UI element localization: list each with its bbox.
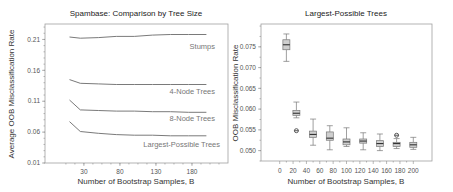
right-x-tick-label: 160 <box>381 167 392 174</box>
right-x-tick-label: 100 <box>341 167 352 174</box>
series-line-2 <box>70 100 207 112</box>
left-y-tick-label: 0.21 <box>27 36 40 43</box>
left-x-axis: 3080130180 <box>66 163 219 175</box>
right-x-tick-label: 0 <box>278 167 282 174</box>
right-y-tick-label: 0.055 <box>240 126 257 133</box>
right-x-axis-title: Number of Bootstrap Samples, B <box>288 177 405 186</box>
left-chart: Spambase: Comparison by Tree Size 0.210.… <box>7 9 228 186</box>
right-x-tick-label: 120 <box>354 167 365 174</box>
box-plot-10 <box>283 34 290 61</box>
left-y-tick-label: 0.16 <box>27 67 40 74</box>
figure: Spambase: Comparison by Tree Size 0.210.… <box>0 0 453 192</box>
left-x-axis-title: Number of Bootstrap Samples, B <box>78 177 195 186</box>
left-x-tick-label: 180 <box>187 168 198 175</box>
box-plot-25 <box>293 102 300 133</box>
series-line-0 <box>70 35 207 39</box>
series-label-8-node: 8-Node Trees <box>170 114 216 123</box>
box-iqr <box>393 142 400 146</box>
right-y-tick-label: 0.060 <box>240 105 257 112</box>
right-y-tick-label: 0.065 <box>240 85 257 92</box>
right-y-tick-label: 0.075 <box>240 43 257 50</box>
right-x-tick-label: 80 <box>330 167 338 174</box>
series-label-largest: Largest-Possible Trees <box>143 140 220 149</box>
right-y-axis: 0.0750.0700.0650.0600.0550.050 <box>240 26 261 161</box>
series-line-3 <box>70 122 207 136</box>
box-plot-125 <box>360 133 367 150</box>
left-x-tick-label: 30 <box>80 168 88 175</box>
box-plot-75 <box>326 126 333 150</box>
series-label-4-node: 4-Node Trees <box>170 87 216 96</box>
right-y-tick-label: 0.070 <box>240 64 257 71</box>
left-y-axis-title: Average OOB Misclassification Rate <box>7 29 16 158</box>
left-y-tick-label: 0.01 <box>27 159 40 166</box>
box-plot-50 <box>310 119 317 145</box>
box-plot-150 <box>376 134 383 151</box>
right-x-tick-label: 20 <box>289 167 297 174</box>
right-chart-title: Largest-Possible Trees <box>305 9 387 18</box>
right-x-tick-label: 180 <box>395 167 406 174</box>
right-x-tick-label: 40 <box>303 167 311 174</box>
left-y-tick-label: 0.06 <box>27 128 40 135</box>
right-x-tick-label: 60 <box>316 167 324 174</box>
right-boxes-group <box>283 34 417 151</box>
left-y-axis: 0.210.160.110.060.01 <box>27 27 45 166</box>
box-iqr <box>326 132 333 140</box>
right-x-tick-label: 200 <box>408 167 419 174</box>
series-label-stumps: Stumps <box>190 42 216 51</box>
left-chart-title: Spambase: Comparison by Tree Size <box>70 9 203 18</box>
right-y-axis-title: OOB Misclassification Rate <box>231 44 240 141</box>
left-y-tick-label: 0.11 <box>28 97 41 104</box>
right-y-tick-label: 0.050 <box>240 147 257 154</box>
box-plot-175 <box>393 133 400 148</box>
series-line-1 <box>70 80 207 85</box>
left-x-tick-label: 80 <box>116 168 124 175</box>
right-chart: Largest-Possible Trees 0.0750.0700.0650.… <box>231 9 432 186</box>
left-x-tick-label: 130 <box>151 168 162 175</box>
box-plot-100 <box>343 128 350 147</box>
right-x-axis: 020406080100120140160180200 <box>278 161 419 174</box>
right-x-tick-label: 140 <box>368 167 379 174</box>
box-plot-200 <box>410 137 417 149</box>
